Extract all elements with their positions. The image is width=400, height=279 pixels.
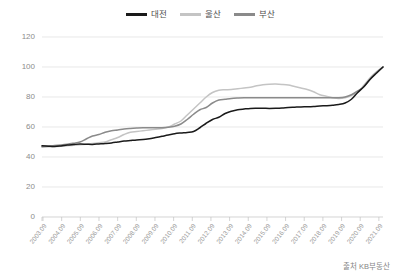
chart-plot: 020406080100120 2003.092004.092005.09200… [0,0,400,279]
x-axis-tick-label: 2006.09 [84,222,104,245]
x-axis-tick-label: 2005.09 [65,222,85,245]
grid-lines [42,37,383,221]
x-axis-tick-label: 2011.09 [178,222,198,244]
x-axis-tick-label: 2008.09 [121,222,141,245]
x-axis-tick-label: 2003.09 [28,222,48,245]
x-axis-tick-label: 2009.09 [140,222,160,245]
x-axis-tick-label: 2015.09 [252,222,272,245]
x-axis-tick-label: 2016.09 [271,222,291,245]
x-axis-tick-label: 2017.09 [289,222,309,245]
series-line-부산 [42,67,383,147]
x-axis-tick-label: 2004.09 [47,222,67,245]
x-axis-tick-label: 2021.09 [364,222,384,245]
x-axis-tick-label: 2012.09 [196,222,216,245]
x-axis-tick-label: 2019.09 [327,222,347,245]
y-axis-tick-label: 0 [31,212,36,221]
series-lines [42,67,383,147]
y-axis-tick-label: 80 [26,92,35,101]
source-note: 출처 KB부동산 [343,260,390,271]
x-axis-tick-label: 2018.09 [308,222,328,245]
y-axis-tick-label: 120 [22,32,36,41]
x-axis-tick-label: 2010.09 [159,222,179,245]
x-axis-tick-label: 2020.09 [345,222,365,245]
y-axis-tick-label: 20 [26,182,35,191]
x-axis-tick-label: 2013.09 [215,222,235,245]
y-axis-ticks: 020406080100120 [22,32,36,221]
x-axis-tick-label: 2014.09 [233,222,253,245]
x-axis-tick-label: 2007.09 [103,222,123,245]
y-axis-tick-label: 100 [22,62,36,71]
y-axis-tick-label: 60 [26,122,35,131]
y-axis-tick-label: 40 [26,152,35,161]
chart-container: 대전 울산 부산 020406080100120 2003.092004.092… [0,0,400,279]
x-axis-ticks: 2003.092004.092005.092006.092007.092008.… [28,217,384,245]
series-line-대전 [42,67,383,147]
